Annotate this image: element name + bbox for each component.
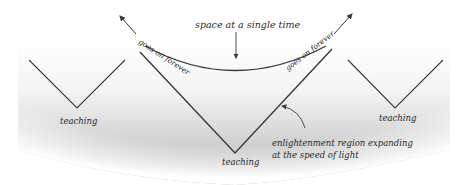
- arrow-upper-left: [120, 16, 136, 34]
- enlightenment-spacetime-diagram: space at a single time goes on forever g…: [0, 0, 470, 185]
- label-teaching-left: teaching: [60, 116, 98, 126]
- label-enlightenment-line2: at the speed of light: [272, 150, 359, 160]
- label-teaching-right: teaching: [379, 113, 417, 123]
- label-space-at-single-time: space at a single time: [195, 19, 300, 30]
- arrow-upper-right: [334, 14, 352, 34]
- label-enlightenment-line1: enlightenment region expanding: [272, 138, 413, 148]
- label-teaching-center: teaching: [222, 157, 260, 167]
